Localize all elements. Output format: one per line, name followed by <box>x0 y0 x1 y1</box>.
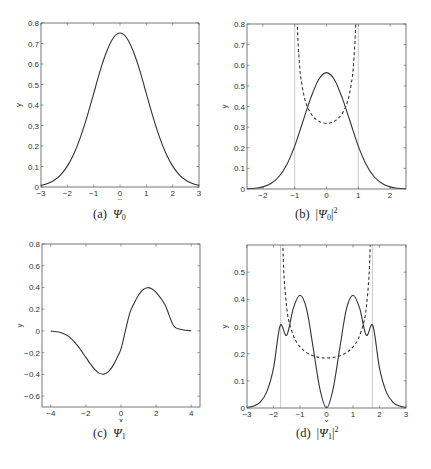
plot-a: −3−2−1012300.10.20.30.40.50.60.70.8xy <box>0 0 215 200</box>
x-tick-label: −2 <box>269 410 279 419</box>
y-tick-label: 0.5 <box>28 81 40 90</box>
x-axis-label: x <box>119 416 123 422</box>
y-tick-label: 0 <box>241 185 246 194</box>
x-tick-label: 1 <box>356 191 361 200</box>
y-tick-label: −0.6 <box>24 392 40 401</box>
series-dashed-line <box>282 222 371 358</box>
series-solid-line <box>247 295 406 408</box>
y-tick-label: 0.1 <box>28 163 40 172</box>
y-tick-label: 0.5 <box>234 268 246 277</box>
axes-box <box>41 23 199 187</box>
series-solid-line <box>41 33 199 185</box>
y-axis-label: y <box>220 105 229 109</box>
y-tick-label: 0.3 <box>28 122 40 131</box>
x-axis-label: x <box>325 417 329 422</box>
x-tick-label: 1 <box>351 410 356 419</box>
axes-a: −3−2−1012300.10.20.30.40.50.60.70.8xy <box>14 19 202 200</box>
x-tick-label: 3 <box>404 410 409 419</box>
y-tick-label: 0.8 <box>28 19 40 28</box>
y-tick-label: −0.2 <box>24 349 40 358</box>
y-tick-label: 0.4 <box>234 103 246 112</box>
y-tick-label: 0 <box>36 327 41 336</box>
x-tick-label: −1 <box>290 191 300 200</box>
x-tick-label: −2 <box>63 189 73 198</box>
y-tick-label: 0.6 <box>29 262 41 271</box>
axes-c: −4−2024−0.6−0.4−0.200.20.40.60.8xy <box>15 240 200 422</box>
x-tick-label: 4 <box>189 409 194 418</box>
y-tick-label: 0 <box>241 404 246 413</box>
x-tick-label: −4 <box>46 409 56 418</box>
axes-b: −2−101200.10.20.30.40.50.60.70.8xy <box>220 20 406 200</box>
series-solid-line <box>247 73 406 189</box>
x-tick-label: 2 <box>170 189 175 198</box>
y-tick-label: 0.5 <box>234 82 246 91</box>
axes-box <box>42 244 200 407</box>
y-tick-label: 0.3 <box>234 323 246 332</box>
x-tick-label: 2 <box>154 409 159 418</box>
y-tick-label: 0.6 <box>28 60 40 69</box>
x-axis-label: x <box>118 196 122 200</box>
y-axis-label: y <box>15 324 24 328</box>
series-solid-line <box>51 288 191 375</box>
y-tick-label: −0.4 <box>24 370 40 379</box>
y-tick-label: 0.8 <box>234 20 246 29</box>
x-tick-label: −2 <box>81 409 91 418</box>
caption-a: (a)Ψ0 <box>93 206 126 222</box>
y-tick-label: 0.7 <box>234 41 246 50</box>
x-tick-label: −1 <box>89 189 99 198</box>
plot-c: −4−2024−0.6−0.4−0.200.20.40.60.8xy <box>0 222 215 422</box>
x-axis-label: x <box>325 198 329 200</box>
y-tick-label: 0.2 <box>234 144 246 153</box>
y-tick-label: 0.6 <box>234 61 246 70</box>
x-tick-label: 2 <box>377 410 382 419</box>
y-axis-label: y <box>14 103 23 107</box>
y-tick-label: 0.7 <box>28 40 40 49</box>
y-tick-label: 0.8 <box>29 240 41 249</box>
axes-box <box>247 24 406 189</box>
y-tick-label: 0.1 <box>234 377 246 386</box>
caption-c: (c)Ψ1 <box>93 425 126 441</box>
caption-b: (b)|Ψ0|2 <box>295 206 337 222</box>
axes-box <box>247 245 406 408</box>
x-tick-label: 2 <box>388 191 393 200</box>
x-tick-label: −2 <box>258 191 268 200</box>
y-tick-label: 0.3 <box>234 123 246 132</box>
x-tick-label: −1 <box>295 410 305 419</box>
axes-d: −3−2−1012300.10.20.30.40.5xy <box>220 222 409 422</box>
plot-d: −3−2−1012300.10.20.30.40.5xy <box>205 222 431 422</box>
plot-b: −2−101200.10.20.30.40.50.60.70.8xy <box>205 0 431 200</box>
caption-d: (d)|Ψ1|2 <box>296 425 338 441</box>
y-tick-label: 0.1 <box>234 164 246 173</box>
y-tick-label: 0 <box>35 183 40 192</box>
y-tick-label: 0.4 <box>29 283 41 292</box>
y-tick-label: 0.4 <box>234 295 246 304</box>
x-tick-label: 1 <box>144 189 149 198</box>
y-tick-label: 0.2 <box>28 142 40 151</box>
y-tick-label: 0.2 <box>29 305 41 314</box>
y-axis-label: y <box>220 325 229 329</box>
y-tick-label: 0.4 <box>28 101 40 110</box>
x-tick-label: 3 <box>197 189 202 198</box>
y-tick-label: 0.2 <box>234 350 246 359</box>
